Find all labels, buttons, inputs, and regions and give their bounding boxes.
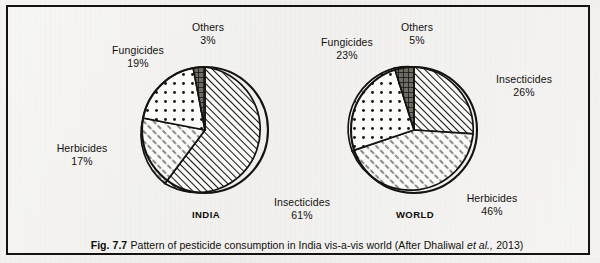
india-fungicides-name: Fungicides (96, 44, 180, 57)
world-herbicides-name: Herbicides (451, 192, 533, 205)
figure-frame: Others 3% Fungicides 19% Herbicides 17% … (6, 5, 590, 255)
figure-caption-italic: et al., (465, 239, 494, 251)
slice-world-insecticides (414, 67, 473, 134)
figure-page: Others 3% Fungicides 19% Herbicides 17% … (0, 0, 600, 263)
pie-world (348, 67, 477, 193)
india-label-herbicides: Herbicides 17% (41, 142, 123, 167)
world-insecticides-pct: 26% (481, 86, 567, 99)
world-label-herbicides: Herbicides 46% (451, 192, 533, 217)
world-label-insecticides: Insecticides 26% (481, 73, 567, 98)
figure-caption-body-2: 2013) (495, 239, 525, 251)
india-herbicides-pct: 17% (41, 155, 123, 168)
india-fungicides-pct: 19% (96, 57, 180, 70)
india-others-name: Others (174, 21, 242, 34)
world-label-fungicides: Fungicides 23% (305, 36, 389, 61)
figure-number: Fig. 7.7 (89, 239, 129, 251)
india-label-insecticides: Insecticides 61% (260, 196, 344, 221)
world-insecticides-name: Insecticides (481, 73, 567, 86)
world-herbicides-pct: 46% (451, 205, 533, 218)
india-label-fungicides: Fungicides 19% (96, 44, 180, 69)
india-insecticides-name: Insecticides (260, 196, 344, 209)
world-chart-title: WORLD (383, 209, 447, 220)
india-label-others: Others 3% (174, 21, 242, 46)
figure-caption: Fig. 7.7Pattern of pesticide consumption… (22, 239, 592, 251)
world-others-pct: 5% (383, 34, 451, 47)
world-label-others: Others 5% (383, 21, 451, 46)
india-insecticides-pct: 61% (260, 209, 344, 222)
world-fungicides-pct: 23% (305, 49, 389, 62)
figure-content: Others 3% Fungicides 19% Herbicides 17% … (8, 7, 588, 253)
world-others-name: Others (383, 21, 451, 34)
world-fungicides-name: Fungicides (305, 36, 389, 49)
figure-caption-body-1: Pattern of pesticide consumption in Indi… (129, 239, 466, 251)
india-others-pct: 3% (174, 34, 242, 47)
pie-india (141, 67, 268, 193)
india-chart-title: INDIA (175, 209, 237, 220)
india-herbicides-name: Herbicides (41, 142, 123, 155)
